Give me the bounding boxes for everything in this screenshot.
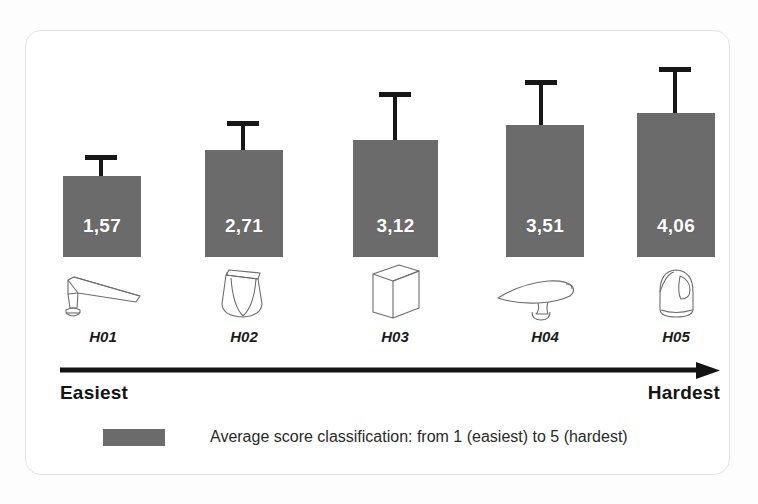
bar-value-h03: 3,12 [353, 215, 438, 237]
category-label-h02: H02 [199, 328, 289, 345]
category-label-h03: H03 [350, 328, 440, 345]
category-label-h01: H01 [58, 328, 148, 345]
wedge-ramp-icon [62, 272, 144, 322]
axis-label-easiest: Easiest [60, 382, 128, 404]
chart-figure: 1,57 H01 2,71 [0, 0, 758, 504]
error-bar-cap-h01 [85, 155, 117, 160]
error-bar-line-h04 [539, 82, 543, 127]
category-label-h05: H05 [631, 328, 721, 345]
bar-value-h04: 3,51 [506, 215, 584, 237]
error-bar-line-h05 [673, 69, 677, 115]
difficulty-axis-arrow-icon [60, 362, 720, 382]
bar-h03[interactable] [353, 140, 438, 257]
error-bar-line-h02 [241, 123, 245, 153]
dome-helmet-icon [650, 266, 702, 322]
wing-fin-icon [494, 278, 584, 322]
bar-h02[interactable] [205, 150, 283, 257]
error-bar-line-h03 [393, 94, 397, 142]
bar-value-h01: 1,57 [63, 215, 141, 237]
bar-h04[interactable] [506, 125, 584, 257]
bar-value-h05: 4,06 [637, 215, 715, 237]
error-bar-cap-h02 [227, 121, 259, 126]
error-bar-cap-h04 [525, 80, 557, 85]
bar-chart-plot-area: 1,57 H01 2,71 [0, 0, 758, 504]
cube-box-icon [365, 262, 425, 322]
bar-value-h02: 2,71 [205, 215, 283, 237]
category-label-h04: H04 [500, 328, 590, 345]
legend-label: Average score classification: from 1 (ea… [210, 428, 628, 446]
bag-pouch-icon [213, 266, 273, 322]
chart-legend: Average score classification: from 1 (ea… [103, 428, 628, 446]
error-bar-cap-h05 [659, 67, 691, 72]
legend-color-swatch [103, 429, 165, 446]
error-bar-cap-h03 [379, 92, 411, 97]
axis-label-hardest: Hardest [648, 382, 720, 404]
